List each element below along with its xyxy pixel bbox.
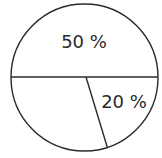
slice-label-20: 20 %	[101, 91, 147, 112]
slice-label-50: 50 %	[61, 31, 107, 52]
pie-chart: 50 % 20 %	[0, 0, 162, 158]
